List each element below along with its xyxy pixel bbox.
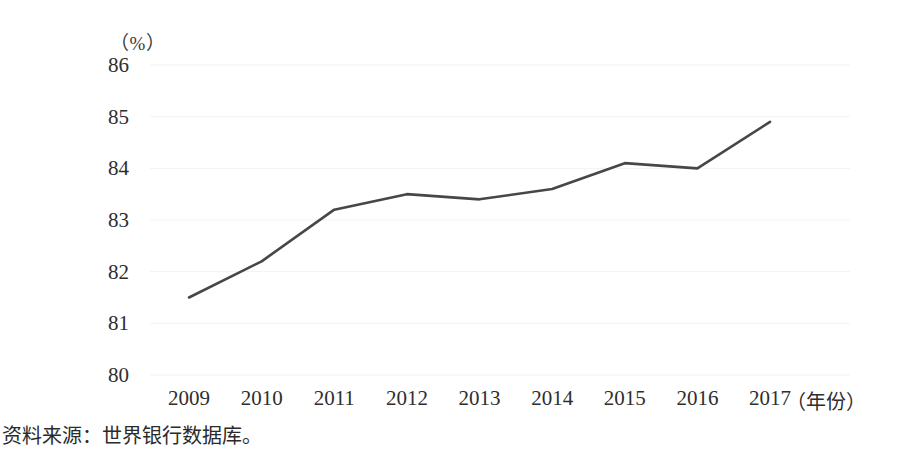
x-tick-2015: 2015 (604, 386, 646, 411)
x-axis-title: （年份） (786, 386, 866, 415)
gridlines (150, 65, 850, 375)
x-tick-2016: 2016 (676, 386, 718, 411)
y-tick-85: 85 (108, 104, 154, 129)
x-tick-2009: 2009 (168, 386, 210, 411)
figure-container: （%） 80818283848586 200920102011201220132… (0, 0, 909, 449)
x-tick-2017: 2017 (749, 386, 791, 411)
x-tick-2014: 2014 (531, 386, 573, 411)
y-tick-81: 81 (108, 311, 154, 336)
y-tick-82: 82 (108, 259, 154, 284)
data-series-line (189, 122, 770, 298)
y-tick-83: 83 (108, 208, 154, 233)
x-tick-2013: 2013 (459, 386, 501, 411)
y-axis-unit-label: （%） (110, 28, 165, 55)
x-tick-2012: 2012 (386, 386, 428, 411)
y-tick-86: 86 (108, 53, 154, 78)
y-tick-84: 84 (108, 156, 154, 181)
x-tick-2010: 2010 (241, 386, 283, 411)
y-tick-80: 80 (108, 363, 154, 388)
source-note: 资料来源：世界银行数据库。 (2, 420, 262, 449)
x-tick-2011: 2011 (314, 386, 355, 411)
